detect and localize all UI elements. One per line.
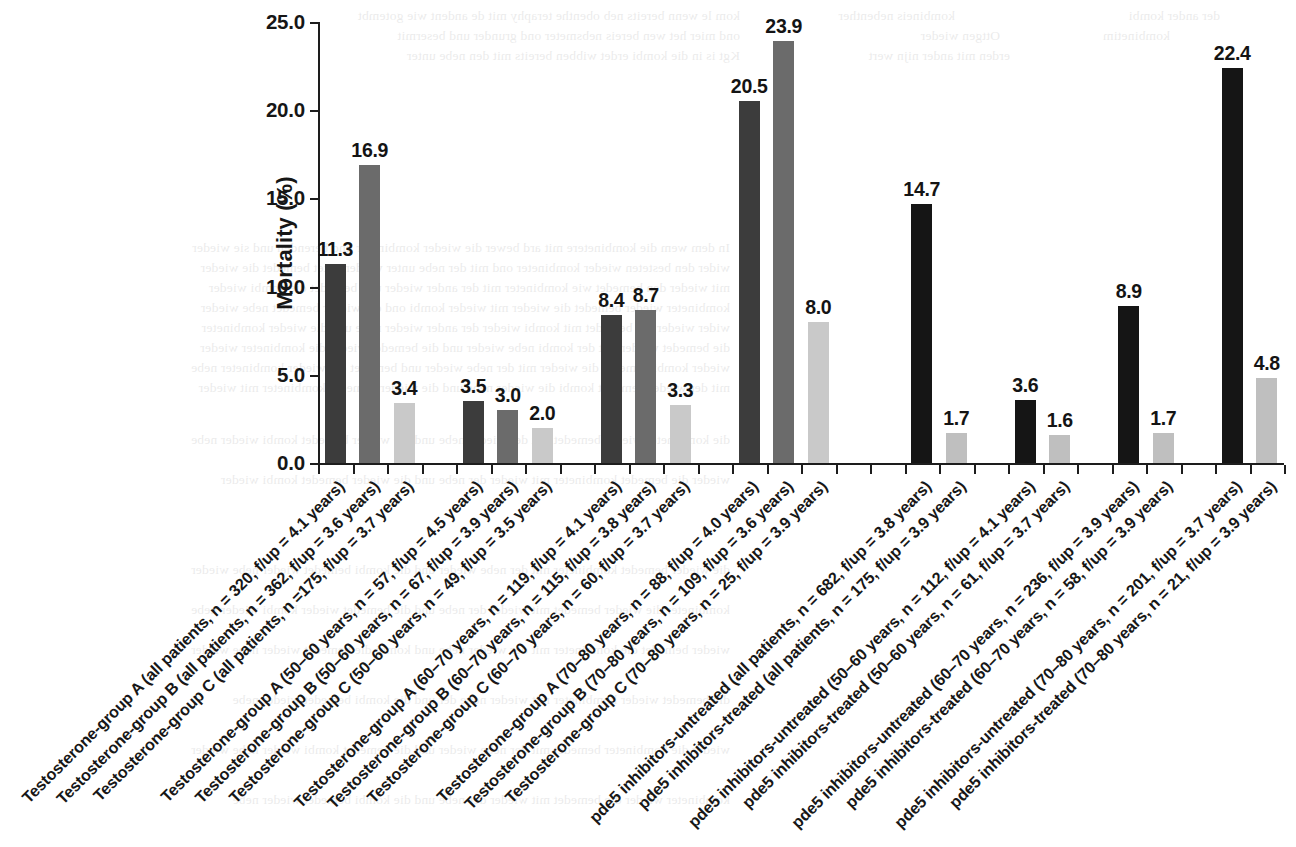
bar[interactable]: 1.7: [946, 433, 967, 463]
bar[interactable]: 1.6: [1049, 435, 1070, 463]
bar[interactable]: 23.9: [773, 41, 794, 463]
y-tick-label: 10.0: [266, 275, 305, 299]
bar-value-label: 1.7: [1150, 407, 1176, 430]
x-tick-mark: [698, 465, 700, 474]
bar-value-label: 8.0: [805, 296, 831, 319]
bar[interactable]: 8.7: [635, 310, 656, 463]
x-tick-mark: [1146, 465, 1148, 474]
bar[interactable]: 8.4: [601, 315, 622, 463]
x-tick-mark: [1008, 465, 1010, 474]
x-tick-mark: [1043, 465, 1045, 474]
bar-value-label: 3.4: [391, 377, 417, 400]
x-tick-mark: [732, 465, 734, 474]
bar[interactable]: 3.0: [497, 410, 518, 463]
bar-value-label: 1.7: [943, 407, 969, 430]
bar[interactable]: 20.5: [739, 101, 760, 463]
x-tick-mark: [353, 465, 355, 474]
bar[interactable]: 8.0: [808, 322, 829, 463]
bar-value-label: 8.7: [633, 284, 659, 307]
bar[interactable]: 4.8: [1256, 378, 1277, 463]
x-tick-mark: [629, 465, 631, 474]
x-tick-mark: [905, 465, 907, 474]
x-tick-mark: [387, 465, 389, 474]
x-tick-mark: [594, 465, 596, 474]
bar-value-label: 1.6: [1047, 409, 1073, 432]
x-tick-mark: [767, 465, 769, 474]
bar-value-label: 22.4: [1214, 42, 1251, 65]
x-tick-mark: [560, 465, 562, 474]
x-tick-mark: [525, 465, 527, 474]
x-tick-mark: [1077, 465, 1079, 474]
bar[interactable]: 11.3: [325, 264, 346, 463]
bar[interactable]: 3.6: [1015, 400, 1036, 464]
y-tick-mark: [310, 22, 318, 24]
x-tick-mark: [1181, 465, 1183, 474]
bar-value-label: 3.5: [460, 375, 486, 398]
x-tick-mark: [1284, 465, 1286, 474]
x-tick-mark: [836, 465, 838, 474]
bar[interactable]: 1.7: [1153, 433, 1174, 463]
x-tick-mark: [663, 465, 665, 474]
bar-value-label: 8.9: [1116, 280, 1142, 303]
y-tick-label: 15.0: [266, 186, 305, 210]
bar[interactable]: 16.9: [359, 165, 380, 463]
x-tick-mark: [491, 465, 493, 474]
y-tick-mark: [310, 287, 318, 289]
bar-value-label: 8.4: [598, 289, 624, 312]
bar[interactable]: 2.0: [532, 428, 553, 463]
bar-value-label: 3.6: [1012, 374, 1038, 397]
x-tick-mark: [1112, 465, 1114, 474]
bar-value-label: 2.0: [529, 402, 555, 425]
y-tick-label: 0.0: [277, 451, 305, 475]
bar[interactable]: 3.4: [394, 403, 415, 463]
bar-value-label: 20.5: [731, 75, 768, 98]
plot-area: Mortality (%) 0.05.010.015.020.025.0 11.…: [318, 22, 1284, 463]
x-tick-mark: [939, 465, 941, 474]
x-tick-mark: [870, 465, 872, 474]
y-tick-label: 20.0: [266, 98, 305, 122]
bar-value-label: 3.0: [495, 384, 521, 407]
bar[interactable]: 3.5: [463, 401, 484, 463]
mortality-bar-chart: Mortality (%) 0.05.010.015.020.025.0 11.…: [0, 0, 1296, 847]
x-tick-mark: [456, 465, 458, 474]
y-tick-mark: [310, 198, 318, 200]
x-tick-mark: [422, 465, 424, 474]
bar-value-label: 14.7: [903, 178, 940, 201]
bar[interactable]: 14.7: [911, 204, 932, 463]
bar-value-label: 11.3: [317, 238, 353, 261]
x-tick-mark: [974, 465, 976, 474]
x-tick-mark: [1250, 465, 1252, 474]
x-axis-category-label: Testosterone-group A (all patients, n = …: [18, 477, 348, 807]
bar-value-label: 3.3: [667, 379, 693, 402]
y-tick-mark: [310, 110, 318, 112]
x-tick-mark: [801, 465, 803, 474]
bar[interactable]: 8.9: [1118, 306, 1139, 463]
x-axis-category-label: pde5 inhibitors-treated (all patients, n…: [634, 477, 970, 813]
x-tick-mark: [1215, 465, 1217, 474]
bar-value-label: 23.9: [765, 15, 802, 38]
x-axis-category-label: pde5 inhibitors-untreated (70–80 years, …: [891, 477, 1246, 832]
y-tick-mark: [310, 375, 318, 377]
y-tick-mark: [310, 463, 318, 465]
bar[interactable]: 3.3: [670, 405, 691, 463]
bar-value-label: 4.8: [1254, 352, 1280, 375]
bar[interactable]: 22.4: [1222, 68, 1243, 463]
y-tick-label: 25.0: [266, 10, 305, 34]
bar-value-label: 16.9: [351, 139, 388, 162]
x-tick-mark: [318, 465, 320, 474]
y-tick-label: 5.0: [277, 363, 305, 387]
